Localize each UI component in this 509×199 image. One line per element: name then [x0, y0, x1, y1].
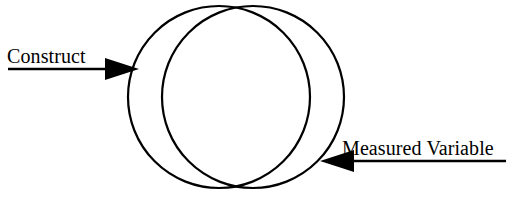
measured-variable-label: Measured Variable	[342, 138, 494, 158]
diagram-graphics	[0, 0, 509, 199]
construct-label: Construct	[7, 46, 86, 66]
diagram-canvas: Construct Measured Variable	[0, 0, 509, 199]
construct-circle	[128, 6, 310, 188]
measured-variable-circle	[162, 6, 344, 188]
construct-arrow-head	[105, 58, 139, 80]
